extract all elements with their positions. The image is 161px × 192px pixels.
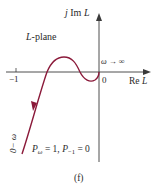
imag-axis-label: j Im L: [65, 8, 89, 18]
omega-infinity-label: ω → ∞: [101, 58, 124, 66]
imag-var: L: [84, 7, 90, 18]
imag-axis-arrow-icon: [96, 13, 102, 21]
zero-minus-omega-label: 0− ω: [9, 134, 18, 153]
real-var: L: [142, 76, 147, 86]
panel-caption: (f): [74, 174, 84, 184]
real-re: Re: [129, 76, 142, 86]
origin-label: 0: [102, 76, 107, 85]
pm1-sub: −1: [68, 148, 75, 155]
minus-one-label: −1: [9, 75, 19, 84]
diagram-graphics: [0, 0, 161, 192]
nyquist-diagram: j Im L L-plane ω → ∞ 0 Re L −1 0− ω Pω =…: [0, 0, 161, 192]
real-axis-label: Re L: [129, 77, 147, 87]
imag-im: Im: [68, 7, 84, 18]
encirclement-annotation: Pω = 1, P−1 = 0: [32, 145, 90, 156]
real-axis-arrow-icon: [143, 69, 151, 75]
pm1-eq: = 0: [75, 144, 90, 154]
plane-label: L-plane: [26, 32, 57, 42]
pw-eq: = 1,: [43, 144, 63, 154]
plane-suffix: -plane: [32, 31, 57, 42]
